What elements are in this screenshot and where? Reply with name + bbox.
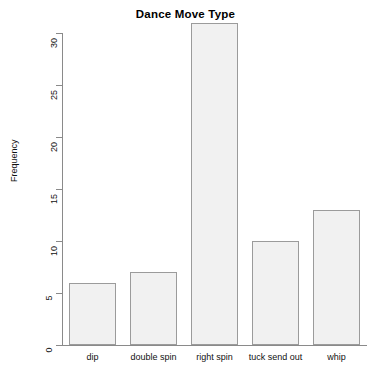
x-axis-line bbox=[62, 345, 367, 346]
y-tick-label: 10 bbox=[49, 246, 59, 256]
y-tick-mark bbox=[56, 241, 62, 242]
bar bbox=[191, 23, 238, 345]
y-tick-mark bbox=[56, 85, 62, 86]
y-tick-label-wrap: 0 bbox=[0, 345, 52, 346]
y-tick-mark bbox=[56, 33, 62, 34]
y-axis-line bbox=[62, 33, 63, 345]
bar bbox=[130, 272, 177, 345]
x-tick-label: double spin bbox=[123, 352, 184, 362]
x-tick-label: whip bbox=[306, 352, 367, 362]
y-tick-label: 5 bbox=[44, 296, 54, 301]
x-tick-label: dip bbox=[62, 352, 123, 362]
y-tick-label-wrap: 10 bbox=[0, 241, 52, 242]
bar bbox=[252, 241, 299, 345]
y-axis-label: Frequency bbox=[9, 139, 19, 182]
y-tick-mark bbox=[56, 293, 62, 294]
y-tick-mark bbox=[56, 137, 62, 138]
y-tick-label-wrap: 5 bbox=[0, 293, 52, 294]
y-tick-label: 0 bbox=[44, 348, 54, 353]
bar bbox=[69, 283, 116, 345]
chart-title: Dance Move Type bbox=[0, 8, 371, 20]
y-tick-label-wrap: 15 bbox=[0, 189, 52, 190]
x-tick-label: right spin bbox=[184, 352, 245, 362]
y-tick-label: 30 bbox=[49, 38, 59, 48]
x-tick-label: tuck send out bbox=[245, 352, 306, 362]
y-tick-label: 20 bbox=[49, 142, 59, 152]
y-tick-label-wrap: 20 bbox=[0, 137, 52, 138]
y-tick-label-wrap: 30 bbox=[0, 33, 52, 34]
y-tick-label-wrap: 25 bbox=[0, 85, 52, 86]
y-tick-label: 15 bbox=[49, 194, 59, 204]
bar-chart: Dance Move Type Frequency 051015202530 d… bbox=[0, 0, 371, 374]
y-tick-label: 25 bbox=[49, 90, 59, 100]
bar bbox=[313, 210, 360, 345]
y-tick-mark bbox=[56, 345, 62, 346]
y-tick-mark bbox=[56, 189, 62, 190]
